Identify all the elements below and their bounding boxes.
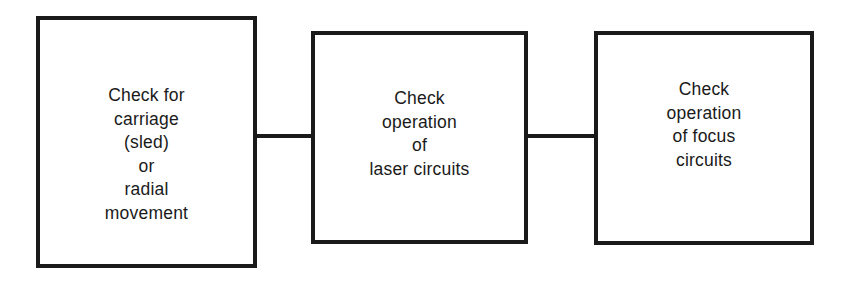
label-line: operation	[598, 102, 810, 126]
label-line: circuits	[598, 149, 810, 173]
label-line: of focus	[598, 125, 810, 149]
label-line: Check	[315, 87, 524, 111]
connector-laser-to-focus	[527, 134, 595, 138]
label-line: of	[315, 134, 524, 158]
label-line: radial	[40, 178, 253, 202]
node-label: Check for carriage (sled) or radial move…	[40, 84, 253, 225]
label-line: movement	[40, 202, 253, 226]
label-line: carriage	[40, 108, 253, 132]
connector-carriage-to-laser	[256, 134, 312, 138]
label-line: laser circuits	[315, 158, 524, 182]
label-line: Check	[598, 78, 810, 102]
label-line: operation	[315, 111, 524, 135]
label-line: (sled)	[40, 131, 253, 155]
label-line: Check for	[40, 84, 253, 108]
label-line: or	[40, 155, 253, 179]
node-check-laser-circuits: Check operation of laser circuits	[311, 31, 528, 244]
node-label: Check operation of focus circuits	[598, 78, 810, 172]
node-label: Check operation of laser circuits	[315, 87, 524, 181]
node-check-carriage-movement: Check for carriage (sled) or radial move…	[36, 16, 257, 268]
node-check-focus-circuits: Check operation of focus circuits	[594, 31, 814, 245]
